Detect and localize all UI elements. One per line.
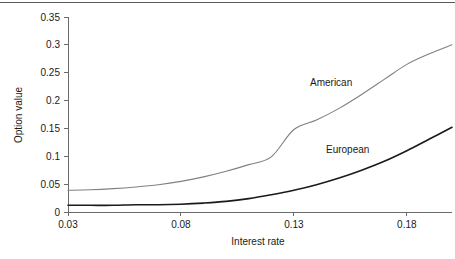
y-tick-label: 0.35 — [41, 12, 61, 23]
y-tick-label: 0.2 — [46, 95, 60, 106]
y-tick-marks — [64, 17, 68, 212]
series-label-american: American — [310, 77, 352, 88]
y-tick-label: 0.15 — [41, 123, 61, 134]
x-tick-label: 0.13 — [284, 219, 304, 230]
y-tick-label: 0.3 — [46, 39, 60, 50]
plot-svg: 00.050.10.150.20.250.30.35 0.030.080.130… — [0, 0, 455, 259]
y-tick-label: 0.05 — [41, 179, 61, 190]
x-tick-label: 0.18 — [397, 219, 417, 230]
y-tick-label: 0.25 — [41, 67, 61, 78]
x-tick-label: 0.08 — [171, 219, 191, 230]
x-axis-title: Interest rate — [231, 236, 285, 247]
curve-european — [68, 127, 452, 205]
chart-page: 00.050.10.150.20.250.30.35 0.030.080.130… — [0, 0, 455, 259]
data-curves — [68, 45, 452, 205]
x-tick-marks — [68, 212, 407, 216]
curve-american — [68, 45, 452, 190]
x-tick-labels: 0.030.080.130.18 — [58, 219, 417, 230]
x-tick-label: 0.03 — [58, 219, 78, 230]
option-value-vs-interest-rate-chart: 00.050.10.150.20.250.30.35 0.030.080.130… — [0, 0, 455, 259]
y-axis-title: Option value — [13, 86, 24, 143]
y-tick-labels: 00.050.10.150.20.250.30.35 — [41, 12, 61, 218]
y-tick-label: 0.1 — [46, 151, 60, 162]
y-tick-label: 0 — [54, 207, 60, 218]
axes — [68, 17, 452, 212]
series-label-european: European — [326, 144, 369, 155]
